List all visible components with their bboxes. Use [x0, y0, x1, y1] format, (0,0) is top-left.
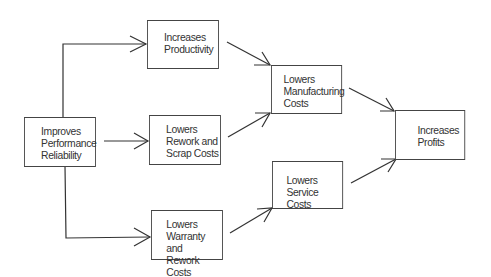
node-increases-profits: Increases Profits — [395, 110, 465, 160]
node-line: Costs — [284, 97, 342, 109]
node-line: Reliability — [41, 149, 95, 161]
node-line: Lowers — [284, 73, 342, 85]
node-line: Rework and — [166, 135, 220, 147]
node-line: Performance — [41, 137, 95, 149]
node-line: Lowers — [166, 123, 220, 135]
node-lowers-warranty-rework: Lowers Warranty and Rework Costs — [151, 210, 223, 260]
node-line: Improves — [41, 125, 95, 137]
node-line: Service Costs — [286, 186, 342, 210]
node-line: Scrap Costs — [166, 147, 220, 159]
node-line: Lowers — [166, 218, 222, 230]
edge-reliability-warranty — [65, 166, 150, 238]
node-improves-reliability: Improves Performance Reliability — [24, 117, 96, 167]
node-line: Profits — [418, 136, 465, 148]
node-line: Warranty and — [166, 230, 222, 254]
node-line: Increases — [418, 124, 465, 136]
node-line: Increases — [164, 31, 218, 43]
node-lowers-service: Lowers Service Costs — [272, 161, 343, 209]
node-line: Rework Costs — [166, 254, 222, 277]
node-line: Productivity — [164, 43, 218, 55]
edge-warranty-service — [230, 208, 272, 233]
node-lowers-rework-scrap: Lowers Rework and Scrap Costs — [149, 115, 221, 165]
node-line: Manufacturing — [284, 85, 342, 97]
edge-reliability-productivity — [63, 44, 146, 118]
node-line: Lowers — [286, 174, 342, 186]
node-lowers-manufacturing: Lowers Manufacturing Costs — [271, 65, 342, 114]
node-increases-productivity: Increases Productivity — [147, 20, 219, 69]
